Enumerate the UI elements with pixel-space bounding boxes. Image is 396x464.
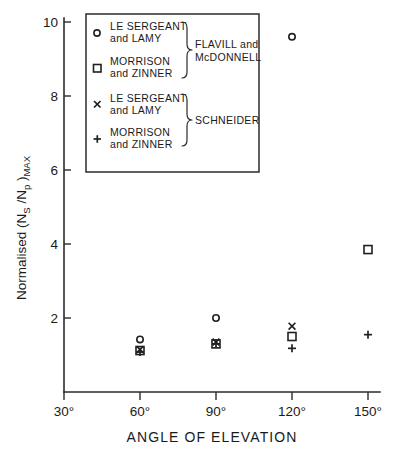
scatter-chart-figure: 10 8 6 4 2 30° 60° 90° 120° 150° ANGLE O… <box>0 0 396 464</box>
legend-group-2-line1: SCHNEIDER <box>195 114 260 126</box>
y-tick-label-10: 10 <box>43 15 58 30</box>
legend-marker-plus-icon <box>94 135 102 143</box>
legend-entry-3-line2: and LAMY <box>110 104 161 116</box>
marker-circle-glyph <box>213 315 219 321</box>
legend-group-1-line1: FLAVILL and <box>195 38 258 50</box>
y-tick-label-2: 2 <box>50 311 58 326</box>
data-point-circle-0-2 <box>289 34 295 40</box>
x-tick-label-150: 150° <box>354 404 382 419</box>
legend-entry-2-line1: MORRISON <box>110 55 170 67</box>
data-point-square-1-2 <box>288 333 296 341</box>
legend-marker-square-icon <box>94 65 102 73</box>
data-point-cross-2-2 <box>289 323 296 330</box>
legend-entry-1-line2: and LAMY <box>110 32 161 44</box>
y-axis-title-prefix: Normalised (N <box>14 214 29 300</box>
x-tick-label-60: 60° <box>130 404 150 419</box>
y-tick-label-8: 8 <box>50 89 58 104</box>
data-point-plus-3-2 <box>288 344 296 352</box>
data-point-square-1-3 <box>364 246 372 254</box>
legend-marker-circle-icon <box>94 30 100 36</box>
data-point-circle-0-0 <box>137 336 143 342</box>
legend-entry-2-line2: and ZINNER <box>110 67 173 79</box>
x-axis-title: ANGLE OF ELEVATION <box>127 429 298 445</box>
x-tick-labels: 30° 60° 90° 120° 150° <box>54 404 382 419</box>
y-axis-title: Normalised (NS /Np )MAX <box>14 155 32 300</box>
chart-canvas: 10 8 6 4 2 30° 60° 90° 120° 150° ANGLE O… <box>0 0 396 464</box>
legend-marker-cross-icon <box>94 101 101 108</box>
y-axis-title-mid: /N <box>14 190 29 207</box>
data-points-layer <box>136 34 372 356</box>
marker-circle-glyph <box>289 34 295 40</box>
y-axis-title-sub-max: MAX <box>21 155 32 176</box>
data-point-circle-0-1 <box>213 315 219 321</box>
data-point-plus-3-1 <box>212 340 220 348</box>
y-tick-label-4: 4 <box>50 237 58 252</box>
y-tick-labels: 10 8 6 4 2 <box>43 15 59 326</box>
marker-circle-glyph <box>137 336 143 342</box>
y-axis-title-text: Normalised (NS /Np )MAX <box>14 155 32 300</box>
data-point-plus-3-3 <box>364 331 372 339</box>
legend-entry-1-line1: LE SERGEANT <box>110 20 187 32</box>
marker-square-glyph <box>288 333 296 341</box>
y-axis-title-close: ) <box>14 177 29 185</box>
legend-entry-3-line1: LE SERGEANT <box>110 92 187 104</box>
marker-square-glyph <box>364 246 372 254</box>
x-tick-label-120: 120° <box>278 404 306 419</box>
legend-entry-4-line1: MORRISON <box>110 126 170 138</box>
x-tick-label-30: 30° <box>54 404 74 419</box>
legend-entry-4-line2: and ZINNER <box>110 138 173 150</box>
x-tick-label-90: 90° <box>206 404 226 419</box>
y-tick-label-6: 6 <box>50 163 58 178</box>
legend-group-1-line2: McDONNELL <box>195 51 261 63</box>
legend: LE SERGEANT and LAMY MORRISON and ZINNER… <box>86 14 261 172</box>
